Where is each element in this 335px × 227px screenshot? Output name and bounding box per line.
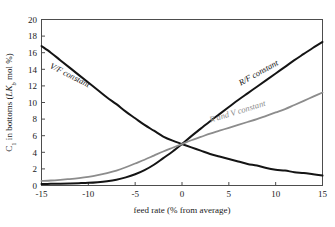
x-tick-label: -5 [131,189,139,199]
x-tick-label: -15 [36,189,48,199]
y-tick-label: 2 [33,164,38,174]
y-axis-ticks [42,20,46,186]
x-axis-title: feed rate (% from average) [134,205,231,215]
y-axis-tick-labels: 02468101214161820 [28,15,38,191]
series-label: V/F constant [48,61,92,90]
x-tick-label: 0 [180,189,185,199]
series-annotations-group: V/F constantR/F constantR and V constant [48,57,280,125]
y-axis-title: C1 in bottoms (LKb mol %) [4,53,17,151]
x-tick-label: 15 [318,189,328,199]
y-tick-label: 14 [28,65,38,75]
y-tick-label: 10 [28,98,38,108]
data-series-group [42,42,323,184]
y-tick-label: 16 [28,48,38,58]
x-axis-tick-labels: -15-10-5051015 [36,189,328,199]
plot-frame-group [42,20,323,186]
y-tick-label: 6 [33,131,38,141]
y-tick-label: 12 [28,81,37,91]
y-tick-label: 20 [28,15,38,25]
series-label: R/F constant [236,57,280,88]
chart-canvas: V/F constantR/F constantR and V constant… [0,0,335,227]
data-curve-r-and-v-constant [42,93,323,181]
plot-area-border [42,20,323,186]
y-tick-label: 18 [28,31,38,41]
y-tick-label: 0 [33,181,38,191]
x-tick-label: -10 [82,189,94,199]
x-tick-label: 10 [271,189,281,199]
chart-figure: V/F constantR/F constantR and V constant… [0,0,335,227]
data-curve-r-f-constant [42,42,323,184]
y-tick-label: 4 [33,148,38,158]
y-tick-label: 8 [33,114,38,124]
x-tick-label: 5 [227,189,232,199]
